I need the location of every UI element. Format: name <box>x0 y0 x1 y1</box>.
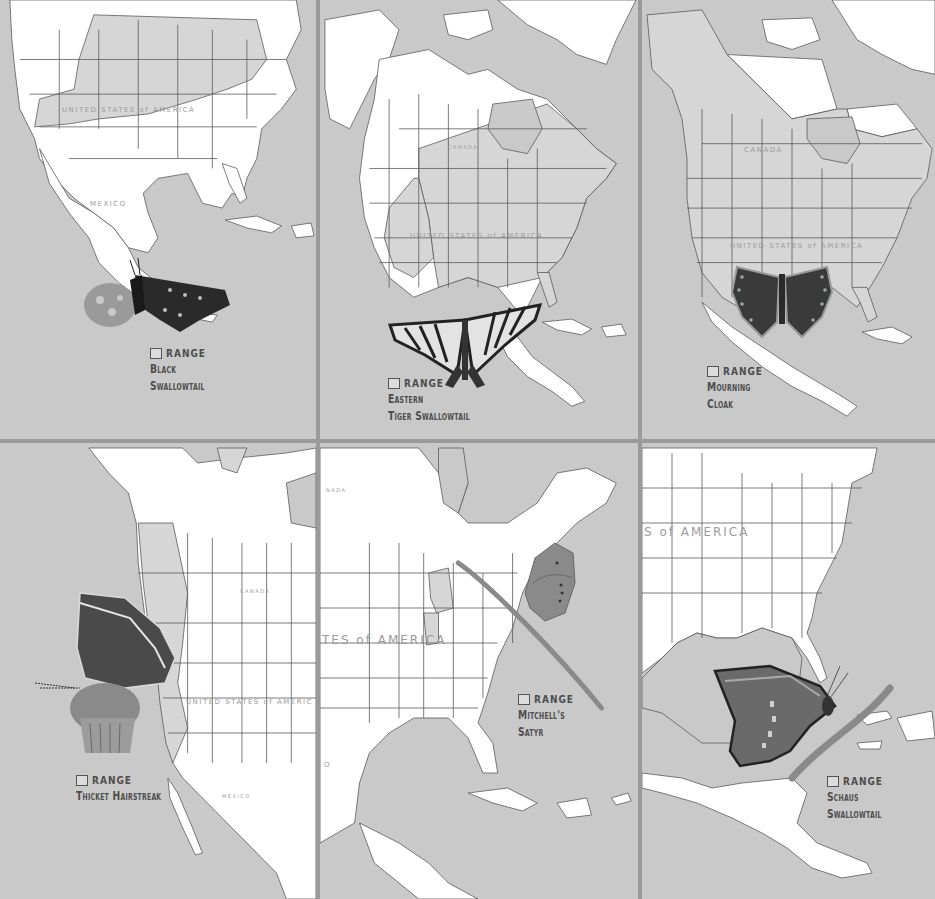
species-name-line2: Cloak <box>707 396 755 413</box>
map-label-canada: CANADA <box>744 146 783 154</box>
range-swatch <box>518 694 530 705</box>
map-label-canada: CANADA <box>448 144 478 150</box>
legend-mourning-cloak: RANGE Mourning Cloak <box>707 363 763 413</box>
panel-thicket-hairstreak: CANADA UNITED STATES of AMERIC MEXICO RA… <box>0 443 320 899</box>
map-label-mexico: MEXICO <box>90 200 127 208</box>
species-name-line2: Satyr <box>518 724 566 741</box>
map-label-usa: UNITED STATES of AMERICA <box>410 232 543 240</box>
species-name-line1: Schaus <box>827 789 882 806</box>
map-label-usa-partial: TES of AMERICA <box>322 633 446 647</box>
map-label-canada-partial: NADA <box>326 487 346 493</box>
map-label-usa: UNITED STATES of AMERICA <box>730 242 863 250</box>
map-label-mexico: MEXICO <box>222 793 251 799</box>
range-map <box>642 0 935 439</box>
species-name-line2: Swallowtail <box>150 378 205 395</box>
species-name-line1: Mourning <box>707 379 755 396</box>
schaus-swallowtail-butterfly-illustration <box>710 661 850 771</box>
range-label: RANGE <box>92 775 132 786</box>
range-label: RANGE <box>166 348 206 359</box>
legend-black-swallowtail: RANGE Black Swallowtail <box>150 345 214 395</box>
map-label-usa: UNITED STATES of AMERICA <box>62 106 195 114</box>
range-map <box>320 443 638 899</box>
legend-eastern-tiger-swallowtail: RANGE Eastern Tiger Swallowtail <box>388 375 484 425</box>
legend-mitchells-satyr: RANGE Mitchell's Satyr <box>518 691 574 741</box>
species-name-line1: Mitchell's <box>518 707 566 724</box>
mourning-cloak-butterfly-illustration <box>727 262 837 342</box>
range-swatch <box>827 776 839 787</box>
range-label: RANGE <box>404 378 444 389</box>
range-label: RANGE <box>534 694 574 705</box>
range-swatch <box>388 378 400 389</box>
range-label: RANGE <box>843 776 883 787</box>
map-label-usa-partial: S of AMERICA <box>644 525 749 539</box>
panel-mourning-cloak: CANADA UNITED STATES of AMERICA RANGE Mo… <box>642 0 935 443</box>
map-label-usa: UNITED STATES of AMERIC <box>186 698 313 706</box>
panel-black-swallowtail: UNITED STATES of AMERICA MEXICO RANGE Bl… <box>0 0 320 443</box>
range-swatch <box>707 366 719 377</box>
species-name-line1: Eastern <box>388 391 470 408</box>
legend-thicket-hairstreak: RANGE Thicket Hairstreak <box>76 772 176 805</box>
panel-mitchells-satyr: NADA TES of AMERICA O RANGE Mitchell's S… <box>320 443 642 899</box>
map-label-canada: CANADA <box>240 588 270 594</box>
range-swatch <box>150 348 162 359</box>
mitchells-satyr-butterfly-illustration <box>515 543 580 623</box>
species-name-line2: Swallowtail <box>827 806 882 823</box>
range-label: RANGE <box>723 366 763 377</box>
species-name-line1: Thicket Hairstreak <box>76 788 161 805</box>
butterfly-range-plate: UNITED STATES of AMERICA MEXICO RANGE Bl… <box>0 0 935 899</box>
thicket-hairstreak-butterfly-illustration <box>35 588 185 758</box>
range-swatch <box>76 775 88 786</box>
species-name-line1: Black <box>150 361 205 378</box>
legend-schaus-swallowtail: RANGE Schaus Swallowtail <box>827 773 891 823</box>
panel-schaus-swallowtail: S of AMERICA RANGE Schaus Swallowtail <box>642 443 935 899</box>
map-label-mexico-partial: O <box>324 761 331 769</box>
species-name-line2: Tiger Swallowtail <box>388 408 470 425</box>
black-swallowtail-butterfly-illustration <box>80 250 235 355</box>
panel-eastern-tiger-swallowtail: CANADA UNITED STATES of AMERICA RANGE Ea… <box>320 0 642 443</box>
